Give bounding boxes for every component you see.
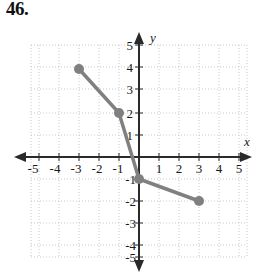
- x-tick-label: 4: [216, 161, 223, 176]
- y-tick-label: -5: [125, 250, 136, 265]
- x-tick-label: -2: [92, 161, 103, 176]
- x-tick-label: 2: [176, 161, 183, 176]
- x-tick-label: 1: [156, 161, 163, 176]
- y-tick-label: 5: [127, 38, 134, 53]
- x-tick-label: -4: [50, 161, 61, 176]
- y-axis-label: y: [148, 30, 156, 45]
- x-axis-label: x: [243, 134, 250, 149]
- y-tick-label: 2: [127, 106, 134, 121]
- y-tick-label: 3: [127, 82, 134, 97]
- x-tick-label: 3: [196, 161, 203, 176]
- y-tick-label: -3: [125, 216, 136, 231]
- x-tick-label: -3: [71, 161, 82, 176]
- coordinate-graph: -5 -4 -3 -2 -1 1 2 3 4 5 5 4 3 2 1 -1 -2…: [0, 0, 265, 277]
- y-tick-label: 4: [127, 60, 134, 75]
- graph-canvas: -5 -4 -3 -2 -1 1 2 3 4 5 5 4 3 2 1 -1 -2…: [0, 0, 265, 277]
- data-point-marker: [134, 174, 144, 184]
- y-tick-label: -2: [125, 194, 136, 209]
- x-tick-label: -1: [113, 161, 124, 176]
- data-point-marker: [74, 64, 84, 74]
- data-point-marker: [194, 196, 204, 206]
- data-point-marker: [114, 108, 124, 118]
- x-tick-label: -5: [28, 161, 39, 176]
- x-tick-label: 5: [236, 161, 243, 176]
- y-axis: [134, 32, 144, 272]
